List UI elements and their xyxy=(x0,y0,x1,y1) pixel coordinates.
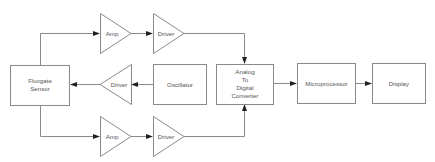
node-label: Display xyxy=(389,80,410,87)
node-analog-to-digital-converter: Analog To Digital Converter xyxy=(217,65,274,105)
node-driver-mid: Driver xyxy=(100,65,132,105)
node-amp-bottom: Amp xyxy=(101,117,132,157)
arrowhead-sensor xyxy=(70,82,77,87)
arrowhead-driver-mid xyxy=(131,82,138,87)
node-amp-top: Amp xyxy=(101,14,132,54)
node-label: Amp xyxy=(106,30,119,37)
arrowhead-amp-top xyxy=(93,31,100,36)
edge-driver-bottom-to-adc xyxy=(184,107,245,137)
arrowhead-driver-bottom xyxy=(146,134,153,139)
node-driver-top: Driver xyxy=(154,14,185,54)
node-fluxgate-sensor: Fluxgate Sensor xyxy=(11,66,70,106)
node-label: Oscillator xyxy=(167,81,193,88)
edge-sensor-to-amp-top xyxy=(41,34,98,66)
node-label: Amp xyxy=(106,133,119,140)
arrowhead-display xyxy=(365,81,372,86)
edge-sensor-to-amp-bottom xyxy=(41,105,98,137)
node-label: Driver xyxy=(111,81,128,88)
node-label: Driver xyxy=(158,30,175,37)
fluxgate-block-diagram: Fluxgate Sensor Amp Driver Driver Oscill… xyxy=(0,0,435,162)
edge-driver-top-to-adc xyxy=(184,34,245,62)
arrowhead-adc-top xyxy=(242,57,247,64)
node-driver-bottom: Driver xyxy=(154,117,185,157)
node-label: Sensor xyxy=(30,85,50,92)
node-label: Driver xyxy=(158,133,175,140)
arrowhead-microprocessor xyxy=(290,81,297,86)
node-label: Analog xyxy=(235,68,255,75)
arrowhead-driver-top xyxy=(146,31,153,36)
node-oscillator: Oscillator xyxy=(154,65,207,105)
node-label: Converter xyxy=(231,92,258,99)
node-display: Display xyxy=(373,64,426,104)
node-label: Digital xyxy=(236,84,253,91)
arrowhead-adc-bottom xyxy=(242,104,247,111)
node-label: To xyxy=(242,76,249,83)
node-label: Fluxgate xyxy=(28,77,52,84)
node-microprocessor: Microprocessor xyxy=(298,64,356,104)
arrowhead-amp-bottom xyxy=(93,134,100,139)
node-label: Microprocessor xyxy=(305,80,347,87)
